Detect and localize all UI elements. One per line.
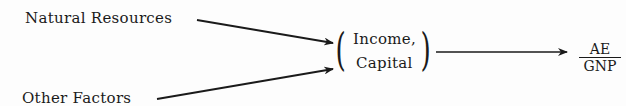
arrow-natural-resources [197,20,333,43]
fraction-numerator: AE [579,42,621,58]
arrows [0,0,626,106]
output-fraction: AE GNP [574,42,626,73]
left-paren: ( [335,28,345,72]
right-paren: ) [420,28,430,72]
fraction-denominator: GNP [574,58,626,73]
flow-diagram: Natural Resources Other Factors ( Income… [0,0,626,106]
arrow-other-factors [157,69,333,99]
intermediate-income: Income, [353,30,416,48]
intermediate-capital: Capital [356,54,413,72]
